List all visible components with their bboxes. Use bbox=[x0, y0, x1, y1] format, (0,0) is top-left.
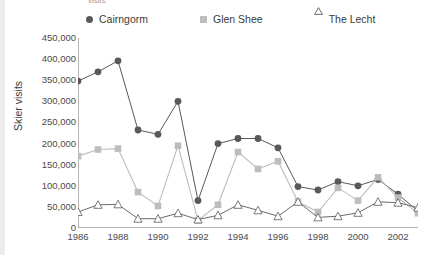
data-point-triangle bbox=[214, 211, 222, 219]
legend-item-cairngorm[interactable]: Cairngorm bbox=[86, 11, 148, 27]
data-point-square bbox=[275, 158, 282, 165]
legend-item-the-lecht[interactable]: The Lecht bbox=[315, 11, 376, 27]
x-axis-tick-labels: 198619881990199219941996199820002002 bbox=[60, 231, 428, 247]
data-point-circle bbox=[275, 144, 282, 151]
data-point-triangle bbox=[234, 201, 242, 209]
data-point-square bbox=[115, 145, 122, 152]
data-point-square bbox=[375, 174, 382, 181]
legend-label-the-lecht: The Lecht bbox=[329, 13, 376, 25]
data-point-circle bbox=[235, 135, 242, 142]
series-layer bbox=[78, 57, 418, 223]
x-axis-tick-label: 1996 bbox=[258, 231, 298, 242]
x-axis-tick-label: 1998 bbox=[298, 231, 338, 242]
y-axis-tick-label: 400,000 bbox=[30, 54, 76, 64]
data-point-circle bbox=[155, 131, 162, 138]
data-point-circle bbox=[215, 140, 222, 147]
data-point-circle bbox=[335, 178, 342, 185]
clipped-title-text: visits bbox=[88, 0, 288, 4]
data-point-triangle bbox=[78, 208, 82, 216]
y-axis-tick-label: 150,000 bbox=[30, 160, 76, 170]
data-point-circle bbox=[135, 127, 142, 134]
legend-label-glen-shee: Glen Shee bbox=[213, 13, 263, 25]
data-point-triangle bbox=[414, 204, 418, 212]
legend-label-cairngorm: Cairngorm bbox=[99, 13, 148, 25]
series-line bbox=[78, 202, 418, 220]
x-axis-tick-label: 2002 bbox=[378, 231, 418, 242]
data-point-square bbox=[215, 202, 222, 209]
data-point-square bbox=[255, 166, 262, 173]
y-axis-tick-label: 250,000 bbox=[30, 117, 76, 127]
series-line bbox=[78, 61, 418, 211]
data-point-square bbox=[355, 197, 362, 204]
data-point-circle bbox=[355, 182, 362, 189]
skier-visits-chart: visits Cairngorm Glen Shee The Lecht Ski… bbox=[0, 0, 428, 255]
x-axis-tick-label: 1986 bbox=[58, 231, 98, 242]
data-point-circle bbox=[315, 187, 322, 194]
data-point-square bbox=[235, 149, 242, 156]
x-axis-tick-label: 1992 bbox=[178, 231, 218, 242]
data-point-square bbox=[175, 142, 182, 149]
data-point-circle bbox=[78, 78, 81, 85]
x-axis-tick-label: 1994 bbox=[218, 231, 258, 242]
axis-lines bbox=[78, 38, 418, 228]
y-axis-tick-label: 300,000 bbox=[30, 96, 76, 106]
data-point-circle bbox=[115, 57, 122, 64]
plot-area bbox=[78, 38, 418, 228]
y-axis-tick-label: 200,000 bbox=[30, 139, 76, 149]
data-point-triangle bbox=[354, 209, 362, 217]
series-the-lecht bbox=[78, 198, 418, 223]
data-point-square bbox=[155, 203, 162, 210]
y-axis-title: Skier visits bbox=[12, 66, 24, 146]
data-point-circle bbox=[295, 183, 302, 190]
legend-item-glen-shee[interactable]: Glen Shee bbox=[200, 11, 263, 27]
y-axis-tick-label: 350,000 bbox=[30, 75, 76, 85]
data-point-circle bbox=[175, 98, 182, 105]
data-point-triangle bbox=[274, 212, 282, 220]
circle-marker-icon bbox=[86, 16, 93, 23]
data-point-triangle bbox=[174, 209, 182, 217]
x-axis-tick-label: 1990 bbox=[138, 231, 178, 242]
data-point-square bbox=[135, 189, 142, 196]
x-axis-tick-label: 2000 bbox=[338, 231, 378, 242]
y-axis-tick-label: 450,000 bbox=[30, 33, 76, 43]
x-axis-tick-label: 1988 bbox=[98, 231, 138, 242]
y-axis-tick-labels: 050,000100,000150,000200,000250,000300,0… bbox=[30, 30, 76, 236]
chart-legend: Cairngorm Glen Shee The Lecht bbox=[60, 11, 400, 27]
square-marker-icon bbox=[200, 16, 207, 23]
data-point-square bbox=[78, 153, 81, 160]
triangle-marker-icon bbox=[315, 15, 323, 23]
data-point-square bbox=[335, 185, 342, 192]
data-point-square bbox=[95, 146, 102, 153]
y-axis-tick-label: 50,000 bbox=[30, 202, 76, 212]
data-point-circle bbox=[255, 135, 262, 142]
data-point-circle bbox=[195, 197, 202, 204]
y-axis-tick-label: 100,000 bbox=[30, 181, 76, 191]
data-point-circle bbox=[95, 68, 102, 75]
